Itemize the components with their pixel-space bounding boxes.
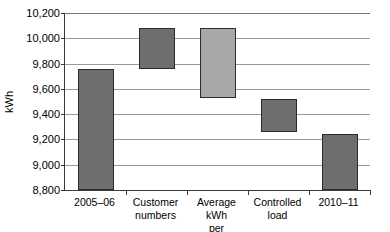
- y-axis-tick-mark: [61, 13, 65, 14]
- bar-total-1: [78, 69, 114, 190]
- x-axis-label-line: 2010–11: [308, 196, 369, 209]
- x-axis-category-label: Customernumbers: [125, 196, 186, 222]
- x-axis-label-line: Average kWh: [186, 196, 247, 222]
- plot-area: [64, 13, 370, 191]
- x-axis-tick-mark: [248, 190, 249, 195]
- y-axis-tick-label: 9,800: [14, 58, 60, 70]
- y-axis-tick-mark: [61, 190, 65, 191]
- x-axis-label-line: Customer: [125, 196, 186, 209]
- y-axis-tick-label: 9,000: [14, 159, 60, 171]
- x-axis-tick-mark: [309, 190, 310, 195]
- y-axis-tick-mark: [61, 89, 65, 90]
- y-axis-tick-mark: [61, 64, 65, 65]
- x-axis-label-line: numbers: [125, 209, 186, 222]
- y-axis-tick-label: 9,600: [14, 83, 60, 95]
- x-axis-tick-labels: 2005–06CustomernumbersAverage kWhper cus…: [64, 196, 370, 232]
- y-axis-tick-label: 9,400: [14, 108, 60, 120]
- x-axis-category-label: Average kWhper customer: [186, 196, 247, 232]
- x-axis-label-line: load: [247, 209, 308, 222]
- x-axis-category-label: 2010–11: [308, 196, 369, 209]
- y-axis-tick-label: 9,200: [14, 133, 60, 145]
- y-axis-tick-mark: [61, 38, 65, 39]
- y-axis-tick-label: 10,200: [14, 7, 60, 19]
- x-axis-label-line: 2005–06: [64, 196, 125, 209]
- x-axis-category-label: 2005–06: [64, 196, 125, 209]
- bar-decrease-4: [261, 99, 297, 132]
- y-axis-tick-labels: 10,20010,0009,8009,6009,4009,2009,0008,8…: [14, 0, 60, 232]
- y-axis-tick-mark: [61, 139, 65, 140]
- bar-decrease-3: [200, 28, 236, 98]
- bar-increase-2: [139, 28, 175, 68]
- y-axis-tick-mark: [61, 114, 65, 115]
- x-axis-label-line: Controlled: [247, 196, 308, 209]
- x-axis-label-line: per customer: [186, 222, 247, 232]
- waterfall-chart: kWh 10,20010,0009,8009,6009,4009,2009,00…: [0, 0, 390, 232]
- x-axis-tick-mark-end: [370, 190, 371, 195]
- x-axis-tick-mark: [187, 190, 188, 195]
- bar-total-5: [322, 134, 358, 190]
- y-axis-tick-label: 8,800: [14, 184, 60, 196]
- gridline: [65, 13, 370, 14]
- y-axis-tick-mark: [61, 165, 65, 166]
- y-axis-tick-label: 10,000: [14, 32, 60, 44]
- x-axis-tick-mark: [126, 190, 127, 195]
- x-axis-category-label: Controlledload: [247, 196, 308, 222]
